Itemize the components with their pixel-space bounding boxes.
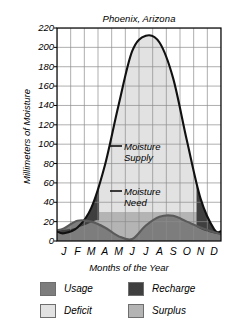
legend-label-surplus: Surplus bbox=[152, 304, 186, 318]
legend-swatch-surplus bbox=[128, 304, 144, 318]
annotation-moisture-need: Moisture Need bbox=[124, 186, 160, 208]
annotation-moisture-supply: Moisture Supply bbox=[124, 141, 160, 163]
x-tick-label: D bbox=[206, 245, 222, 257]
legend-swatch-deficit bbox=[40, 304, 56, 318]
annotation-moisture-need-line1: Moisture bbox=[124, 186, 160, 197]
annotation-moisture-supply-line2: Supply bbox=[124, 152, 160, 163]
plot-content bbox=[57, 28, 221, 241]
legend-label-usage: Usage bbox=[64, 282, 93, 296]
water-budget-chart-figure: Phoenix, Arizona Millimeters of Moisture… bbox=[0, 0, 228, 332]
legend-label-recharge: Recharge bbox=[152, 282, 195, 296]
legend-swatch-usage bbox=[40, 282, 56, 296]
annotation-moisture-need-line2: Need bbox=[124, 197, 160, 208]
x-axis-label: Months of the Year bbox=[34, 262, 224, 273]
legend-label-deficit: Deficit bbox=[64, 304, 92, 318]
annotation-moisture-supply-line1: Moisture bbox=[124, 141, 160, 152]
x-axis-tick-labels: JFMAMJJASOND bbox=[57, 245, 221, 259]
legend-swatch-recharge bbox=[128, 282, 144, 296]
legend: Usage Recharge Deficit Surplus bbox=[20, 281, 220, 327]
